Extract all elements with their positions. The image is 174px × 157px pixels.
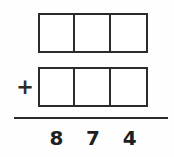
addition-worksheet: + 8 7 4	[0, 0, 174, 157]
plus-icon: +	[14, 74, 36, 100]
addend-row-2	[38, 67, 148, 107]
sum-digit-hundreds: 8	[38, 124, 75, 152]
addend-1-cell-ones[interactable]	[111, 15, 146, 51]
addend-2-cell-hundreds[interactable]	[40, 69, 75, 105]
sum-line	[14, 117, 168, 119]
addend-2-cell-tens[interactable]	[75, 69, 110, 105]
sum-row: 8 7 4	[38, 124, 148, 152]
sum-digit-ones: 4	[111, 124, 148, 152]
addend-2-cell-ones[interactable]	[111, 69, 146, 105]
addend-row-1	[38, 13, 148, 53]
addend-1-cell-tens[interactable]	[75, 15, 110, 51]
addend-1-cell-hundreds[interactable]	[40, 15, 75, 51]
sum-digit-tens: 7	[75, 124, 112, 152]
